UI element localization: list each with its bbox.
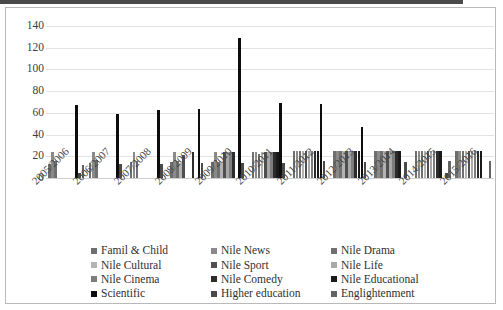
x-axis-tick-labels: 2005/20062006/20072007/20082008/20092009… xyxy=(46,179,494,239)
legend-swatch-icon xyxy=(331,276,337,282)
legend-item-label: Famil & Child xyxy=(101,245,168,257)
legend-item: Nile Drama xyxy=(331,245,451,257)
bar xyxy=(75,105,78,178)
bar xyxy=(238,38,241,178)
legend-swatch-icon xyxy=(331,262,337,268)
legend-swatch-icon xyxy=(211,276,217,282)
legend-swatch-icon xyxy=(91,248,97,254)
legend-item: Nile News xyxy=(211,245,331,257)
legend-swatch-icon xyxy=(331,248,337,254)
legend-item: Nile Cinema xyxy=(91,274,211,286)
legend-swatch-icon xyxy=(211,291,217,297)
bar xyxy=(232,152,235,178)
legend-item: Nile Comedy xyxy=(211,274,331,286)
legend-item: Nile Educational xyxy=(331,274,451,286)
bar xyxy=(489,161,492,178)
legend-item-label: Nile News xyxy=(221,245,270,257)
y-axis-tick-label: 60 xyxy=(8,107,44,119)
bar xyxy=(192,152,195,178)
legend-swatch-icon xyxy=(211,248,217,254)
legend-item: Nile Cultural xyxy=(91,260,211,272)
legend-item-label: Englightenment xyxy=(341,288,414,300)
legend-item-label: Nile Cinema xyxy=(101,274,159,286)
y-axis-tick-label: 100 xyxy=(8,64,44,76)
y-axis-tick-label: 120 xyxy=(8,42,44,54)
y-axis-tick-label: 20 xyxy=(8,151,44,163)
legend-item-label: Nile Life xyxy=(341,260,383,272)
legend-item: Englightenment xyxy=(331,288,451,300)
y-axis-tick-label: 40 xyxy=(8,129,44,141)
legend-item: Nile Life xyxy=(331,260,451,272)
y-axis-tick-label: 140 xyxy=(8,20,44,32)
legend-item-label: Higher education xyxy=(221,288,301,300)
legend-item-label: Nile Comedy xyxy=(221,274,283,286)
legend-swatch-icon xyxy=(91,291,97,297)
legend-item-label: Nile Sport xyxy=(221,260,269,272)
window-top-edge-gap xyxy=(463,0,503,4)
legend-item: Nile Sport xyxy=(211,260,331,272)
legend-item-label: Scientific xyxy=(101,288,145,300)
chart-legend: Famil & ChildNile NewsNile DramaNile Cul… xyxy=(91,244,451,301)
legend-item: Higher education xyxy=(211,288,331,300)
legend-item-label: Nile Cultural xyxy=(101,260,161,272)
y-axis-tick-labels: 020406080100120140 xyxy=(6,26,44,178)
legend-item: Scientific xyxy=(91,288,211,300)
bar-chart: 020406080100120140 2005/20062006/2007200… xyxy=(0,0,503,310)
legend-swatch-icon xyxy=(211,262,217,268)
legend-item-label: Nile Educational xyxy=(341,274,419,286)
legend-swatch-icon xyxy=(91,262,97,268)
chart-frame: 020406080100120140 2005/20062006/2007200… xyxy=(5,7,496,304)
bar xyxy=(480,151,483,178)
legend-swatch-icon xyxy=(91,276,97,282)
y-axis-tick-label: 80 xyxy=(8,85,44,97)
legend-item-label: Nile Drama xyxy=(341,245,395,257)
legend-swatch-icon xyxy=(331,291,337,297)
window-top-edge xyxy=(0,0,503,4)
legend-item: Famil & Child xyxy=(91,245,211,257)
